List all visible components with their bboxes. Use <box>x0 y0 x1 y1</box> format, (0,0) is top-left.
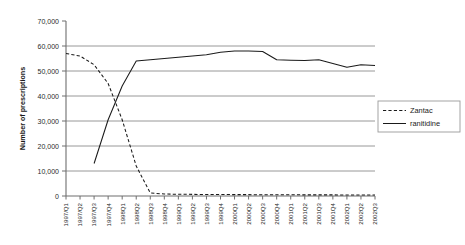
prescriptions-line-chart: 010,00020,00030,00040,00050,00060,00070,… <box>0 0 465 245</box>
y-tick-label: 50,000 <box>38 68 60 75</box>
x-tick-label: 1998Q2 <box>133 202 140 224</box>
x-tick-label: 1997/Q2 <box>76 202 83 226</box>
x-tick-label: 2000Q3 <box>259 202 266 224</box>
y-axis-label: Number of prescriptions <box>18 67 27 150</box>
x-tick-label: 1998Q4 <box>161 202 168 224</box>
x-tick-label: 2000Q4 <box>273 202 280 224</box>
y-axis-ticks: 010,00020,00030,00040,00050,00060,00070,… <box>38 18 66 200</box>
x-tick-label: 1998Q3 <box>147 202 154 224</box>
x-axis-ticks: 1997/Q11997/Q21997/Q31997/Q41998Q11998Q2… <box>62 196 378 226</box>
x-tick-label: 1998Q1 <box>119 202 126 224</box>
series-line-zantac <box>66 54 375 196</box>
x-tick-label: 2001Q4 <box>329 202 336 224</box>
series-line-ranitidine <box>94 51 375 164</box>
data-series <box>66 51 375 195</box>
x-tick-label: 2002Q2 <box>357 202 364 224</box>
x-tick-label: 2000Q1 <box>231 202 238 224</box>
y-axis-title: Number of prescriptions <box>18 67 27 150</box>
y-tick-label: 0 <box>55 193 59 200</box>
legend-label-zantac: Zantac <box>410 106 433 115</box>
x-tick-label: 1997/Q1 <box>62 202 69 226</box>
x-tick-label: 2001Q3 <box>315 202 322 224</box>
chart-canvas: 010,00020,00030,00040,00050,00060,00070,… <box>0 0 465 245</box>
x-tick-label: 1997/Q3 <box>90 202 97 226</box>
x-tick-label: 1999Q4 <box>217 202 224 224</box>
y-tick-label: 60,000 <box>38 43 60 50</box>
y-tick-label: 30,000 <box>38 118 60 125</box>
y-tick-label: 70,000 <box>38 18 60 25</box>
chart-legend[interactable]: Zantacranitidine <box>378 101 460 132</box>
y-tick-label: 20,000 <box>38 143 60 150</box>
y-tick-label: 10,000 <box>38 168 60 175</box>
x-tick-label: 1999Q2 <box>189 202 196 224</box>
x-tick-label: 1997/Q4 <box>105 202 112 226</box>
x-tick-label: 2002Q3 <box>371 202 378 224</box>
legend-label-ranitidine: ranitidine <box>410 119 440 128</box>
x-tick-label: 2001Q1 <box>287 202 294 224</box>
x-tick-label: 2000Q2 <box>245 202 252 224</box>
x-tick-label: 2002Q1 <box>343 202 350 224</box>
y-tick-label: 40,000 <box>38 93 60 100</box>
x-tick-label: 2001Q2 <box>301 202 308 224</box>
x-tick-label: 1999Q1 <box>175 202 182 224</box>
x-tick-label: 1999Q3 <box>203 202 210 224</box>
